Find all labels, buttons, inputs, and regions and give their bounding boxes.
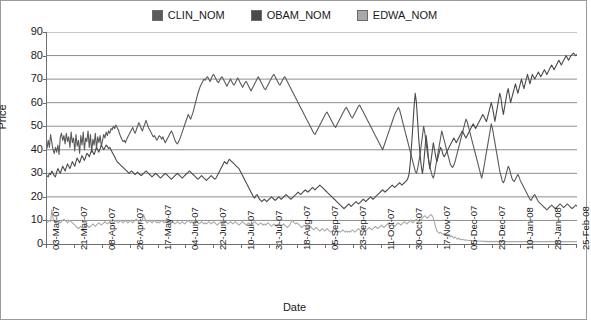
x-axis-tick-mark: [158, 244, 159, 248]
series-line-clin-nom: [47, 74, 577, 209]
x-axis-tick-label: 23-Dec-07: [496, 206, 507, 250]
legend-item-edwa-nom: EDWA_NOM: [357, 10, 437, 21]
x-axis-tick-label: 21-Mar-07: [78, 206, 89, 250]
x-axis-tick-label: 05-Sep-07: [329, 206, 340, 250]
x-axis-tick-mark: [492, 244, 493, 248]
x-axis-tick-label: 11-Oct-07: [385, 208, 396, 250]
x-axis-tick-mark: [409, 244, 410, 248]
x-axis-tick-label: 10-Jan-08: [524, 207, 535, 250]
x-axis-tick-label: 22-Jun-07: [217, 207, 228, 250]
x-axis-tick-label: 17-Nov-07: [441, 206, 452, 250]
x-axis-tick-mark: [381, 244, 382, 248]
x-axis-tick-label: 26-Apr-07: [134, 208, 145, 250]
x-axis-tick-mark: [353, 244, 354, 248]
x-axis-tick-label: 03-Mar-07: [50, 206, 61, 250]
x-axis-tick-mark: [74, 244, 75, 248]
x-axis-tick-mark: [213, 244, 214, 248]
y-axis-tick-label: 30: [1, 166, 43, 178]
legend-item-obam-nom: OBAM_NOM: [251, 10, 331, 21]
chart-legend: CLIN_NOMOBAM_NOMEDWA_NOM: [1, 10, 588, 21]
legend-label: OBAM_NOM: [267, 10, 331, 21]
x-axis-tick-label: 31-Jul-07: [273, 210, 284, 250]
x-axis-tick-mark: [241, 244, 242, 248]
legend-label: EDWA_NOM: [373, 10, 437, 21]
x-axis-tick-label: 28-Jan-08: [552, 207, 563, 250]
y-axis-tick-label: 0: [1, 237, 43, 249]
x-axis-tick-mark: [576, 244, 577, 248]
x-axis-tick-mark: [548, 244, 549, 248]
y-axis-tick-label: 20: [1, 190, 43, 202]
x-axis-tick-mark: [464, 244, 465, 248]
y-axis-title: Price: [0, 104, 8, 129]
x-axis-tick-mark: [185, 244, 186, 248]
legend-item-clin-nom: CLIN_NOM: [152, 10, 225, 21]
legend-swatch-icon: [251, 10, 262, 21]
y-axis-tick-label: 90: [1, 25, 43, 37]
x-axis-tick-label: 08-Apr-07: [106, 208, 117, 250]
x-axis-tick-label: 18-Aug-07: [301, 206, 312, 250]
x-axis-tick-mark: [46, 244, 47, 248]
x-axis-tick-label: 25-Feb-08: [580, 206, 591, 250]
x-axis-tick-label: 10-Jul-07: [245, 210, 256, 250]
x-axis-tick-mark: [130, 244, 131, 248]
x-axis-tick-label: 23-Sep-07: [357, 206, 368, 250]
x-axis-tick-mark: [102, 244, 103, 248]
x-axis-tick-mark: [520, 244, 521, 248]
y-axis-tick-label: 80: [1, 49, 43, 61]
x-axis-tick-mark: [437, 244, 438, 248]
y-axis-tick-label: 10: [1, 213, 43, 225]
x-axis-tick-label: 17-May-07: [162, 205, 173, 250]
y-axis-tick-label: 40: [1, 143, 43, 155]
y-axis-tick-label: 70: [1, 72, 43, 84]
legend-swatch-icon: [152, 10, 163, 21]
x-axis-tick-label: 30-Oct-07: [413, 208, 424, 250]
x-axis-tick-mark: [269, 244, 270, 248]
x-axis-title: Date: [1, 301, 588, 313]
x-axis-tick-label: 05-Dec-07: [468, 206, 479, 250]
x-axis-tick-mark: [325, 244, 326, 248]
legend-label: CLIN_NOM: [168, 10, 225, 21]
x-axis-tick-mark: [297, 244, 298, 248]
legend-swatch-icon: [357, 10, 368, 21]
x-axis-tick-label: 04-Jun-07: [189, 207, 200, 250]
